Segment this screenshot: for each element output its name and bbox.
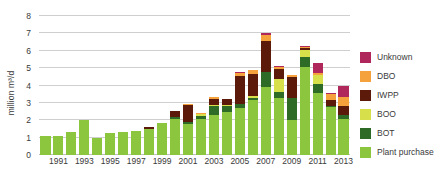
bar-segment [66, 132, 76, 155]
bar-segment [196, 119, 206, 155]
x-axis-tick-label: 1993 [75, 157, 94, 166]
plot-area [39, 16, 350, 155]
y-axis-tick-label: 7 [26, 29, 31, 38]
legend-item[interactable]: DBO [360, 67, 440, 86]
bar-segment [313, 75, 323, 85]
legend-item[interactable]: Unknown [360, 48, 440, 67]
bar-segment [287, 120, 297, 155]
bar-column[interactable] [261, 33, 271, 155]
y-axis-tick-label: 0 [26, 151, 31, 160]
legend-item-label: BOO [377, 110, 396, 119]
bar-segment [235, 76, 245, 105]
bar-segment [300, 57, 310, 67]
bar-column[interactable] [131, 131, 141, 155]
bar-segment [338, 86, 348, 98]
bar-column[interactable] [235, 72, 245, 155]
legend-item-label: DBO [377, 72, 395, 81]
bar-column[interactable] [287, 75, 297, 155]
x-axis-tick-label: 1999 [153, 157, 172, 166]
x-axis-tick-label: 2009 [282, 157, 301, 166]
bar-column[interactable] [92, 138, 102, 155]
y-axis-tick-label: 5 [26, 64, 31, 73]
bar-segment [261, 87, 271, 155]
bar-segment [313, 84, 323, 93]
y-axis-tick-labels: 012345678 [0, 16, 36, 155]
bar-segment [274, 69, 284, 79]
bar-segment [338, 97, 348, 105]
legend-swatch-icon [360, 109, 371, 120]
bar-segment [131, 131, 141, 155]
bar-segment [157, 123, 167, 155]
bar-segment [261, 41, 271, 71]
y-axis-tick-label: 4 [26, 81, 31, 90]
bar-segment [326, 107, 336, 155]
legend-swatch-icon [360, 90, 371, 101]
bar-column[interactable] [326, 93, 336, 155]
bar-segment [118, 132, 128, 155]
x-axis-tick-label: 2011 [308, 157, 326, 166]
bar-column[interactable] [66, 132, 76, 155]
bar-series-group [39, 16, 350, 155]
x-axis-tick-label: 1997 [127, 157, 146, 166]
bar-column[interactable] [105, 133, 115, 155]
bar-segment [40, 136, 50, 155]
bar-segment [170, 119, 180, 155]
bar-segment [287, 98, 297, 120]
legend-item-label: Unknown [377, 53, 412, 62]
bar-segment [248, 74, 258, 96]
x-axis-tick-label: 1991 [49, 157, 68, 166]
legend-item[interactable]: IWPP [360, 86, 440, 105]
bar-segment [222, 112, 232, 155]
bar-segment [209, 106, 219, 116]
bar-column[interactable] [248, 70, 258, 155]
bar-segment [261, 72, 271, 88]
bar-column[interactable] [144, 127, 154, 155]
x-axis-tick-label: 2005 [230, 157, 249, 166]
bar-column[interactable] [157, 123, 167, 155]
bar-column[interactable] [170, 111, 180, 155]
x-axis-tick-label: 2003 [204, 157, 223, 166]
x-axis-tick-label: 2013 [334, 157, 353, 166]
bar-segment [338, 106, 348, 115]
legend-swatch-icon [360, 52, 371, 63]
bar-column[interactable] [40, 136, 50, 155]
bar-column[interactable] [313, 63, 323, 155]
bar-segment [183, 105, 193, 122]
bar-column[interactable] [338, 86, 348, 155]
x-axis-tick-label: 1995 [101, 157, 120, 166]
bar-column[interactable] [196, 113, 206, 155]
bar-column[interactable] [300, 46, 310, 155]
legend-swatch-icon [360, 71, 371, 82]
bar-segment [300, 67, 310, 155]
bar-segment [274, 98, 284, 155]
bar-segment [313, 93, 323, 155]
legend-item[interactable]: Plant purchase [360, 143, 440, 162]
bar-segment [79, 120, 89, 155]
y-axis-tick-label: 3 [26, 99, 31, 108]
bar-segment [274, 79, 284, 93]
bar-column[interactable] [118, 132, 128, 155]
bar-column[interactable] [222, 99, 232, 155]
y-axis-tick-label: 8 [26, 12, 31, 21]
bar-segment [92, 138, 102, 155]
bar-segment [183, 124, 193, 155]
legend-swatch-icon [360, 147, 371, 158]
y-axis-tick-label: 6 [26, 47, 31, 56]
bar-segment [300, 50, 310, 57]
bar-column[interactable] [209, 97, 219, 155]
legend-swatch-icon [360, 128, 371, 139]
bar-segment [209, 115, 219, 155]
bar-column[interactable] [79, 120, 89, 155]
bar-segment [53, 136, 63, 155]
bar-segment [144, 129, 154, 155]
x-axis-tick-labels: 1991199319951997199920012003200520072009… [39, 157, 350, 173]
legend-item-label: IWPP [377, 91, 399, 100]
bar-segment [338, 119, 348, 155]
legend-item[interactable]: BOO [360, 105, 440, 124]
bar-column[interactable] [53, 136, 63, 155]
bar-column[interactable] [274, 66, 284, 155]
bar-column[interactable] [183, 104, 193, 155]
legend-item[interactable]: BOT [360, 124, 440, 143]
x-axis-tick-label: 2007 [256, 157, 275, 166]
bar-segment [326, 100, 336, 107]
